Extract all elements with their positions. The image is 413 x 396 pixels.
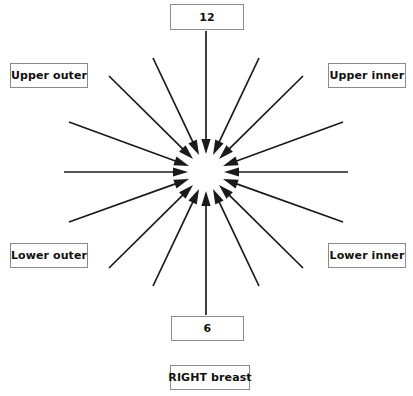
- clock-position-12-box: 12: [170, 4, 244, 30]
- arrow-8-oclock-shaft: [109, 194, 184, 268]
- arrow-5-half-oclock-shaft: [218, 200, 259, 286]
- clock-position-6-label: 6: [204, 323, 212, 334]
- arrow-11-oclock-shaft: [109, 76, 184, 150]
- quadrant-lower-inner-box: Lower inner: [328, 243, 406, 268]
- arrow-11-half-oclock-shaft: [153, 58, 194, 144]
- arrow-1-oclock-shaft: [218, 58, 259, 144]
- arrow-9-oclock-head: [173, 167, 188, 176]
- arrow-3-half-oclock-head: [223, 157, 239, 166]
- arrow-10-oclock-head: [173, 157, 189, 166]
- quadrant-lower-outer-box: Lower outer: [10, 243, 88, 268]
- clock-position-12-label: 12: [199, 12, 215, 23]
- arrow-4-oclock-head: [223, 179, 239, 188]
- arrow-3-oclock-head: [224, 167, 239, 176]
- clock-position-6-box: 6: [171, 316, 244, 341]
- quadrant-upper-outer-box: Upper outer: [10, 63, 88, 88]
- arrow-1-oclock-head: [213, 139, 224, 155]
- quadrant-upper-inner-label: Upper inner: [330, 70, 405, 81]
- arrow-6-oclock-head: [201, 191, 210, 206]
- diagram-title-box: RIGHT breast: [170, 365, 250, 390]
- arrow-5-oclock-shaft: [228, 194, 303, 268]
- arrow-11-half-oclock-head: [188, 139, 199, 155]
- arrow-12-oclock-head: [201, 139, 210, 154]
- diagram-canvas: 12 Upper outer Upper inner Lower outer L…: [0, 0, 413, 396]
- arrow-group: [64, 31, 348, 315]
- quadrant-lower-outer-label: Lower outer: [11, 250, 87, 261]
- arrow-2-oclock-shaft: [228, 76, 303, 150]
- arrow-8-half-oclock-head: [173, 179, 189, 188]
- quadrant-lower-inner-label: Lower inner: [330, 250, 405, 261]
- arrow-5-half-oclock-head: [213, 189, 224, 205]
- diagram-title-label: RIGHT breast: [168, 372, 251, 383]
- quadrant-upper-outer-label: Upper outer: [11, 70, 87, 81]
- arrow-7-oclock-shaft: [153, 200, 194, 286]
- quadrant-upper-inner-box: Upper inner: [328, 63, 406, 88]
- arrow-7-oclock-head: [188, 189, 199, 205]
